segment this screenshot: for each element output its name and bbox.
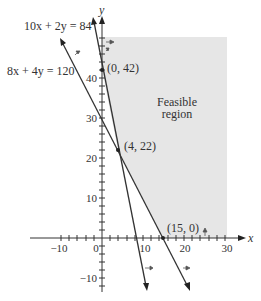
x-axis-label: x — [247, 231, 254, 245]
equation-label-2: 8x + 4y = 120 — [7, 64, 75, 78]
x-ticks — [61, 235, 225, 241]
y-tick-label: −10 — [80, 272, 98, 284]
line1-arrow-bottom-icon — [143, 283, 149, 291]
point-label-4-22: (4, 22) — [124, 139, 156, 153]
line1-arrow-top-icon — [91, 17, 97, 25]
y-axis-label: y — [98, 3, 105, 17]
region-label-line2: region — [162, 107, 193, 121]
y-tick-label: 30 — [86, 112, 98, 124]
y-tick-label: 10 — [86, 192, 98, 204]
x-tick-label: −10 — [50, 242, 68, 254]
lp-graph: 10x + 2y = 84 8x + 4y = 120 (0, 42) (4, … — [0, 0, 261, 301]
equation-label-1: 10x + 2y = 84 — [24, 19, 92, 33]
vertex-4-22 — [116, 148, 120, 152]
y-axis-arrow-icon — [99, 16, 105, 24]
line2-arrow-top-icon — [60, 38, 66, 46]
x-tick-label: 0 — [93, 242, 99, 254]
vertex-0-42 — [100, 68, 104, 72]
x-tick-label: 20 — [180, 242, 192, 254]
point-label-15-0: (15, 0) — [167, 221, 199, 235]
line2-arrow-bottom-icon — [184, 282, 190, 291]
y-tick-label: 40 — [86, 72, 98, 84]
x-tick-label: 10 — [140, 242, 152, 254]
x-axis-arrow-icon — [238, 235, 246, 241]
point-label-0-42: (0, 42) — [107, 61, 139, 75]
y-tick-label: 20 — [86, 152, 98, 164]
x-tick-label: 30 — [222, 242, 234, 254]
vertex-15-0 — [161, 236, 165, 240]
